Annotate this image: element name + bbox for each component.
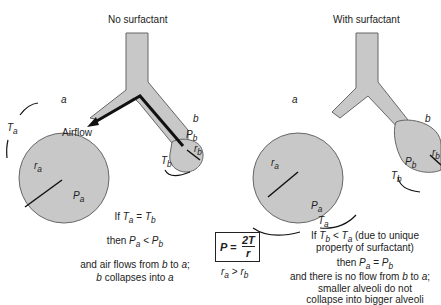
ra-label-left: ra — [34, 160, 42, 174]
left-airway — [19, 33, 203, 223]
right-line1b: property of surfactant) — [290, 242, 440, 253]
pb-label-right: Pb — [405, 156, 416, 170]
formula-box: P = 2T r — [215, 232, 260, 262]
ta-label-left: Ta — [7, 122, 18, 136]
right-line4: smaller alveoli do not — [290, 283, 440, 294]
label-a-right: a — [292, 94, 298, 105]
rb-label-left: rb — [194, 143, 202, 157]
left-line2: then Pa < Pb — [90, 235, 180, 249]
rb-label-right: rb — [432, 147, 440, 161]
pa-label-right: Pa — [311, 200, 322, 214]
pa-label-left: Pa — [73, 190, 84, 204]
left-line3: and air flows from b to a; — [60, 259, 210, 270]
ta-label-right: Ta — [318, 215, 329, 229]
right-title: With surfactant — [333, 14, 400, 25]
right-line5: collapse into bigger alveoli — [290, 294, 440, 305]
right-line3: and there is no flow from b to a; — [280, 271, 440, 282]
airflow-label: Airflow — [62, 127, 92, 138]
pb-label-left: Pb — [186, 129, 197, 143]
tb-label-left: Tb — [161, 155, 172, 169]
label-b-left: b — [193, 113, 199, 124]
left-title: No surfactant — [108, 14, 167, 25]
label-a-left: a — [61, 94, 67, 105]
left-line1: If Ta = Tb — [90, 211, 180, 225]
tb-label-right: Tb — [391, 170, 402, 184]
left-line4: b collapses into a — [60, 272, 210, 283]
right-airway — [253, 33, 441, 223]
label-b-right: b — [425, 113, 431, 124]
ra-label-right: ra — [271, 157, 279, 171]
radius-relation: ra > rb — [221, 266, 248, 280]
right-line2: then Pa = Pb — [290, 257, 440, 271]
